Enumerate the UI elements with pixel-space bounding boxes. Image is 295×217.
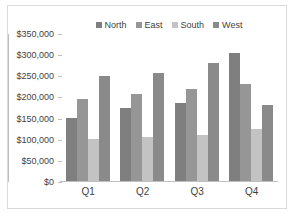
y-axis-line <box>8 34 9 182</box>
bar-q3-north[interactable] <box>175 103 186 181</box>
legend-label: South <box>181 21 205 30</box>
bar-groups <box>61 34 278 181</box>
bar-q2-west[interactable] <box>153 73 164 181</box>
legend-label: East <box>145 21 163 30</box>
bar-q4-north[interactable] <box>229 53 240 181</box>
y-tick-label: $250,000 <box>16 72 54 81</box>
x-axis: Q1Q2Q3Q4 <box>61 186 279 197</box>
bar-q1-west[interactable] <box>99 76 110 181</box>
y-tick-label: $50,000 <box>21 156 54 165</box>
y-tick-label: $200,000 <box>16 93 54 102</box>
legend-swatch-icon <box>96 22 102 28</box>
bar-q2-east[interactable] <box>131 94 142 181</box>
y-tick-label: $300,000 <box>16 51 54 60</box>
bar-q4-south[interactable] <box>251 129 262 181</box>
bar-q1-east[interactable] <box>77 99 88 181</box>
bar-q1-south[interactable] <box>88 139 99 181</box>
y-tick-label: $100,000 <box>16 135 54 144</box>
legend-item-south[interactable]: South <box>172 21 205 30</box>
bar-q3-west[interactable] <box>208 63 219 181</box>
legend-label: West <box>222 21 242 30</box>
legend-item-north[interactable]: North <box>96 21 127 30</box>
y-tick-label: $350,000 <box>16 30 54 39</box>
chart-legend: NorthEastSouthWest <box>60 18 278 32</box>
legend-swatch-icon <box>172 22 178 28</box>
bar-group-q1 <box>66 34 110 181</box>
y-axis: $0$50,000$100,000$150,000$200,000$250,00… <box>8 34 58 182</box>
legend-item-west[interactable]: West <box>213 21 242 30</box>
bar-group-q2 <box>120 34 164 181</box>
bar-q3-south[interactable] <box>197 135 208 181</box>
bar-q3-east[interactable] <box>186 89 197 181</box>
legend-swatch-icon <box>213 22 219 28</box>
bar-q4-west[interactable] <box>262 105 273 181</box>
legend-label: North <box>105 21 127 30</box>
bar-q2-south[interactable] <box>142 137 153 181</box>
chart-container: NorthEastSouthWest $0$50,000$100,000$150… <box>7 5 287 209</box>
legend-swatch-icon <box>136 22 142 28</box>
x-axis-line <box>60 181 278 182</box>
y-tick-mark <box>58 182 62 183</box>
x-tick-label-q2: Q2 <box>136 186 149 197</box>
x-tick-label-q1: Q1 <box>82 186 95 197</box>
y-tick-label: $0 <box>44 178 54 187</box>
x-tick-label-q4: Q4 <box>245 186 258 197</box>
legend-item-east[interactable]: East <box>136 21 163 30</box>
bar-q2-north[interactable] <box>120 108 131 181</box>
bar-q4-east[interactable] <box>240 84 251 181</box>
bar-q1-north[interactable] <box>66 118 77 181</box>
plot-area <box>60 34 278 182</box>
y-tick-label: $150,000 <box>16 114 54 123</box>
x-tick-label-q3: Q3 <box>191 186 204 197</box>
bar-group-q4 <box>229 34 273 181</box>
bar-group-q3 <box>175 34 219 181</box>
